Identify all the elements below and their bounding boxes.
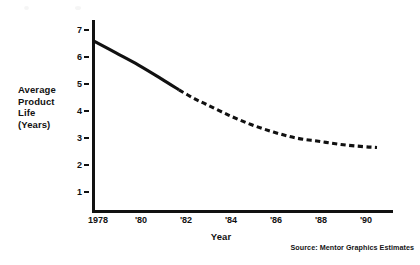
plot-area	[0, 0, 420, 265]
x-axis-title: Year	[176, 231, 266, 242]
data-line-dashed	[179, 90, 377, 148]
chart-container: Average Product Life (Years) 7 6 5 4 3 2…	[0, 0, 420, 265]
source-note: Source: Mentor Graphics Estimates	[291, 243, 414, 252]
data-line-solid	[94, 41, 180, 90]
y-axis-ticks	[84, 30, 89, 192]
